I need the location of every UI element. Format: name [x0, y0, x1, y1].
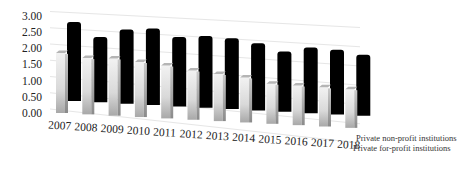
x-tick-label: 2015 [258, 133, 282, 146]
y-tick-label: 3.00 [22, 10, 42, 22]
x-axis: 2007200820092010201120122013201420152016… [48, 119, 361, 151]
legend-item-non-profit: Private non-profit institutions [356, 133, 457, 143]
y-axis: 0.000.501.001.502.002.503.00 [22, 10, 42, 120]
x-tick-label: 2007 [48, 119, 72, 132]
bar-for-profit-2010 [135, 60, 147, 118]
bar-for-profit-2009 [109, 56, 121, 116]
bar-for-profit-2014 [240, 75, 252, 123]
x-tick-label: 2013 [206, 129, 230, 142]
bar-non-profit-2008 [93, 37, 107, 102]
bar-for-profit-2017 [319, 85, 331, 127]
bar-for-profit-2012 [188, 68, 200, 120]
bar-non-profit-2007 [67, 22, 81, 101]
y-tick-label: 0.50 [22, 91, 42, 103]
legend: Private non-profit institutions Private … [353, 133, 457, 153]
x-tick-label: 2011 [153, 126, 176, 139]
y-tick-label: 1.50 [22, 58, 42, 70]
bar-non-profit-2014 [251, 43, 265, 110]
bar-non-profit-2010 [146, 29, 160, 105]
x-tick-label: 2016 [284, 134, 308, 147]
bar-for-profit-2016 [293, 83, 305, 125]
y-tick-label: 0.00 [22, 107, 42, 119]
bar-for-profit-2013 [214, 71, 226, 121]
bar-for-profit-2008 [82, 56, 94, 115]
x-tick-label: 2008 [74, 120, 98, 133]
bar-non-profit-2012 [199, 36, 213, 108]
bar-for-profit-2007 [56, 50, 68, 113]
y-tick-label: 1.00 [22, 75, 42, 87]
bar-for-profit-2018 [345, 87, 357, 128]
x-tick-label: 2017 [311, 136, 335, 149]
bar-non-profit-2009 [120, 30, 134, 104]
bar-for-profit-2011 [161, 63, 173, 118]
bar-non-profit-2011 [172, 37, 186, 106]
bar-chart-3d: 0.000.501.001.502.002.503.00 20072008200… [0, 0, 470, 173]
y-tick-label: 2.50 [22, 26, 42, 38]
legend-item-for-profit: Private for-profit institutions [353, 143, 451, 153]
x-tick-label: 2010 [127, 124, 151, 137]
bar-non-profit-2015 [277, 51, 291, 111]
y-tick-label: 2.00 [22, 42, 42, 54]
x-tick-label: 2014 [232, 131, 256, 144]
x-tick-label: 2012 [179, 127, 203, 140]
bar-non-profit-2017 [330, 50, 344, 115]
bar-non-profit-2018 [356, 55, 370, 116]
bar-non-profit-2013 [225, 38, 239, 109]
bar-non-profit-2016 [304, 48, 318, 114]
x-tick-label: 2009 [100, 122, 124, 135]
bar-for-profit-2015 [266, 81, 278, 124]
